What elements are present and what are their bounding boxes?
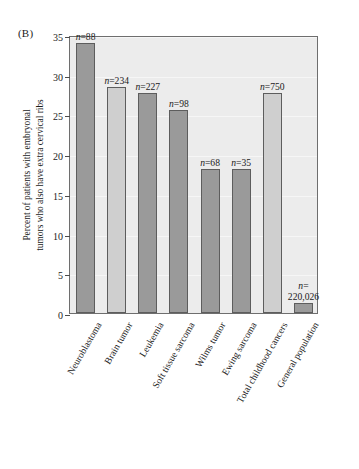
- bar-sample-size-label: n=227: [136, 81, 161, 92]
- bar-sample-size-label: n=220,026: [288, 281, 319, 302]
- y-axis-tick-mark: [65, 156, 70, 157]
- y-axis-tick-mark: [65, 77, 70, 78]
- bar: n=88: [76, 43, 95, 313]
- bar: n=227: [138, 93, 157, 313]
- y-axis-tick-label: 5: [58, 270, 63, 281]
- y-axis-tick-label: 15: [53, 190, 63, 201]
- x-axis-label: Wilms tumor: [193, 320, 228, 369]
- y-axis-tick-mark: [65, 275, 70, 276]
- bar-sample-size-label: n=88: [76, 31, 96, 42]
- bar: n=750: [263, 93, 282, 313]
- x-axis-label: Leukemia: [137, 320, 166, 359]
- bar-sample-size-label: n=234: [104, 75, 129, 86]
- bar: n=220,026: [294, 303, 313, 313]
- bar: n=68: [201, 169, 220, 313]
- y-axis-title-line-1: Percent of patients with embryonal: [21, 99, 34, 251]
- x-axis-label: Neuroblastoma: [64, 320, 103, 376]
- y-axis-title: Percent of patients with embryonal tumor…: [19, 36, 49, 314]
- y-axis-tick-mark: [65, 236, 70, 237]
- y-axis-tick-mark: [65, 116, 70, 117]
- y-axis-tick-mark: [65, 196, 70, 197]
- bar-sample-size-label: n=68: [200, 157, 220, 168]
- gridline: [70, 37, 317, 38]
- y-axis-tick-label: 35: [53, 32, 63, 43]
- bar: n=234: [107, 87, 126, 313]
- y-axis-title-line-2: tumors who also have extra cervical ribs: [34, 99, 47, 251]
- y-axis-tick-label: 0: [58, 310, 63, 321]
- x-axis-labels: NeuroblastomaBrain tumorLeukemiaSoft tis…: [69, 314, 318, 464]
- y-axis-tick-label: 10: [53, 230, 63, 241]
- y-axis-tick-mark: [65, 37, 70, 38]
- y-axis-tick-label: 25: [53, 111, 63, 122]
- y-axis-tick-label: 30: [53, 71, 63, 82]
- bar: n=35: [232, 169, 251, 313]
- y-axis-tick-label: 20: [53, 151, 63, 162]
- bar-sample-size-label: n=98: [169, 98, 189, 109]
- bar: n=98: [169, 110, 188, 313]
- plot-area: 05101520253035 n=88n=234n=227n=98n=68n=3…: [69, 36, 318, 314]
- x-axis-label: Brain tumor: [101, 320, 134, 366]
- bar-sample-size-label: n=35: [231, 157, 251, 168]
- bar-sample-size-label: n=750: [260, 81, 285, 92]
